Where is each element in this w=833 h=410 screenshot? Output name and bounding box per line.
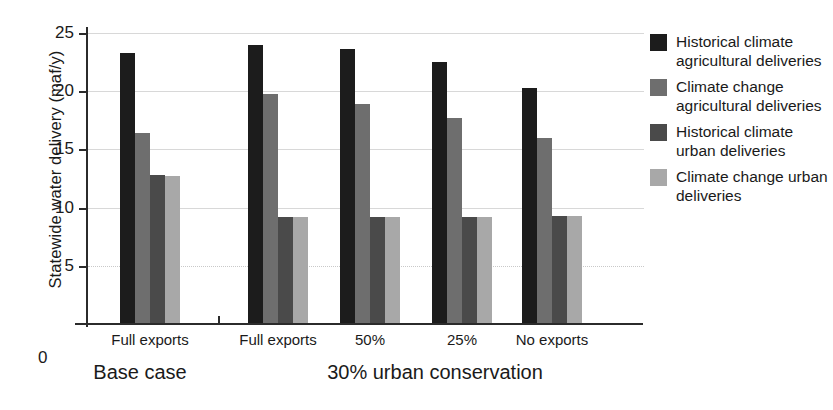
bar: [340, 49, 355, 324]
y-axis-tick-label-wrap: 20: [22, 91, 74, 92]
y-axis-tick: [79, 91, 88, 93]
legend-swatch-icon: [650, 124, 667, 141]
bar: [432, 62, 447, 324]
y-axis-tick: [79, 266, 88, 268]
bar: [370, 217, 385, 324]
bar: [477, 217, 492, 324]
y-axis-tick-label: 25: [34, 23, 74, 43]
bar: [248, 45, 263, 324]
bar: [537, 138, 552, 324]
legend-item-label: Historical climate agricultural deliveri…: [676, 32, 833, 70]
plot-area: [88, 33, 644, 324]
x-axis-category-label: No exports: [477, 331, 627, 348]
x-axis-group-separator-tick: [218, 316, 220, 325]
x-axis-group-label: Base case: [60, 361, 220, 384]
legend-item-label: Historical climate urban deliveries: [676, 122, 833, 160]
bar: [552, 216, 567, 324]
legend-swatch-icon: [650, 34, 667, 51]
bar: [355, 104, 370, 324]
x-axis-group-label: 30% urban conservation: [230, 361, 640, 384]
y-axis-tick-label: 20: [34, 81, 74, 101]
bar: [278, 217, 293, 324]
y-axis-tick-label-wrap: 5: [22, 266, 74, 267]
bar: [135, 133, 150, 324]
bar: [567, 216, 582, 324]
bar: [462, 217, 477, 324]
y-axis-zero-label: 0: [38, 348, 47, 368]
legend-item-label: Climate change agricultural deliveries: [676, 77, 833, 115]
legend-item-label: Climate change urban deliveries: [676, 167, 833, 205]
bar: [447, 118, 462, 324]
gridline: [88, 91, 644, 92]
legend-item[interactable]: Climate change agricultural deliveries: [650, 77, 833, 115]
bar: [293, 217, 308, 324]
y-axis-tick-label-wrap: 10: [22, 208, 74, 209]
y-axis-title: Statewide water delivery (maf/y): [46, 10, 65, 330]
legend-swatch-icon: [650, 169, 667, 186]
legend-item[interactable]: Historical climate agricultural deliveri…: [650, 32, 833, 70]
chart-legend: Historical climate agricultural deliveri…: [650, 32, 833, 212]
bar: [522, 88, 537, 324]
bar: [120, 53, 135, 324]
bar-chart-figure: Statewide water delivery (maf/y) 5101520…: [0, 0, 833, 410]
bar: [385, 217, 400, 324]
gridline: [88, 33, 644, 34]
y-axis-tick-label: 5: [34, 256, 74, 276]
x-axis-line: [75, 323, 643, 325]
bar: [263, 94, 278, 324]
y-axis-tick: [79, 33, 88, 35]
y-axis-line: [86, 27, 88, 327]
y-axis-tick: [79, 149, 88, 151]
bar: [165, 176, 180, 324]
y-axis-tick-label: 10: [34, 198, 74, 218]
y-axis-tick-label: 15: [34, 139, 74, 159]
legend-swatch-icon: [650, 79, 667, 96]
legend-item[interactable]: Climate change urban deliveries: [650, 167, 833, 205]
y-axis-tick: [79, 208, 88, 210]
y-axis-tick-label-wrap: 15: [22, 149, 74, 150]
legend-item[interactable]: Historical climate urban deliveries: [650, 122, 833, 160]
y-axis-tick-label-wrap: 25: [22, 33, 74, 34]
bar: [150, 175, 165, 324]
